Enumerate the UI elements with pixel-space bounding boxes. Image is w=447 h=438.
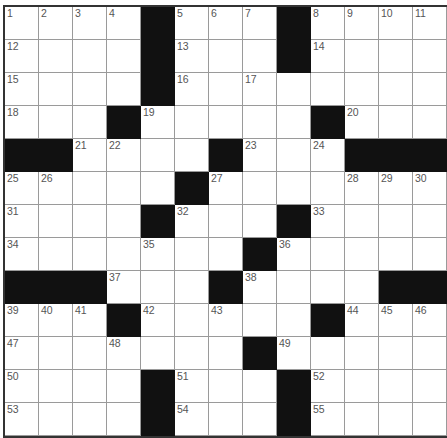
grid-cell[interactable] bbox=[209, 205, 243, 238]
grid-cell[interactable] bbox=[107, 370, 141, 403]
grid-cell[interactable]: 18 bbox=[5, 106, 39, 139]
grid-cell[interactable] bbox=[73, 403, 107, 436]
grid-cell[interactable] bbox=[243, 106, 277, 139]
grid-cell[interactable] bbox=[107, 40, 141, 73]
grid-cell[interactable] bbox=[107, 172, 141, 205]
grid-cell[interactable] bbox=[345, 403, 379, 436]
grid-cell[interactable]: 35 bbox=[141, 238, 175, 271]
grid-cell[interactable] bbox=[73, 238, 107, 271]
grid-cell[interactable]: 4 bbox=[107, 7, 141, 40]
grid-cell[interactable] bbox=[413, 40, 447, 73]
grid-cell[interactable] bbox=[277, 172, 311, 205]
grid-cell[interactable] bbox=[277, 271, 311, 304]
grid-cell[interactable]: 19 bbox=[141, 106, 175, 139]
grid-cell[interactable]: 9 bbox=[345, 7, 379, 40]
grid-cell[interactable]: 12 bbox=[5, 40, 39, 73]
grid-cell[interactable] bbox=[379, 205, 413, 238]
grid-cell[interactable]: 53 bbox=[5, 403, 39, 436]
grid-cell[interactable] bbox=[243, 172, 277, 205]
grid-cell[interactable] bbox=[209, 106, 243, 139]
grid-cell[interactable] bbox=[39, 238, 73, 271]
grid-cell[interactable] bbox=[243, 403, 277, 436]
grid-cell[interactable] bbox=[277, 106, 311, 139]
grid-cell[interactable] bbox=[107, 73, 141, 106]
grid-cell[interactable]: 40 bbox=[39, 304, 73, 337]
grid-cell[interactable]: 29 bbox=[379, 172, 413, 205]
grid-cell[interactable] bbox=[311, 238, 345, 271]
grid-cell[interactable]: 13 bbox=[175, 40, 209, 73]
grid-cell[interactable]: 7 bbox=[243, 7, 277, 40]
grid-cell[interactable] bbox=[73, 73, 107, 106]
grid-cell[interactable] bbox=[243, 205, 277, 238]
grid-cell[interactable]: 14 bbox=[311, 40, 345, 73]
grid-cell[interactable]: 15 bbox=[5, 73, 39, 106]
grid-cell[interactable] bbox=[413, 73, 447, 106]
grid-cell[interactable] bbox=[175, 139, 209, 172]
grid-cell[interactable] bbox=[39, 73, 73, 106]
grid-cell[interactable] bbox=[311, 271, 345, 304]
grid-cell[interactable]: 55 bbox=[311, 403, 345, 436]
grid-cell[interactable] bbox=[379, 403, 413, 436]
grid-cell[interactable] bbox=[175, 238, 209, 271]
grid-cell[interactable] bbox=[345, 370, 379, 403]
grid-cell[interactable] bbox=[413, 238, 447, 271]
grid-cell[interactable]: 8 bbox=[311, 7, 345, 40]
grid-cell[interactable]: 24 bbox=[311, 139, 345, 172]
grid-cell[interactable] bbox=[379, 337, 413, 370]
grid-cell[interactable] bbox=[39, 205, 73, 238]
grid-cell[interactable]: 38 bbox=[243, 271, 277, 304]
grid-cell[interactable]: 31 bbox=[5, 205, 39, 238]
grid-cell[interactable] bbox=[277, 304, 311, 337]
grid-cell[interactable]: 54 bbox=[175, 403, 209, 436]
grid-cell[interactable] bbox=[345, 205, 379, 238]
grid-cell[interactable]: 32 bbox=[175, 205, 209, 238]
grid-cell[interactable]: 11 bbox=[413, 7, 447, 40]
grid-cell[interactable] bbox=[209, 40, 243, 73]
grid-cell[interactable] bbox=[39, 403, 73, 436]
grid-cell[interactable] bbox=[311, 337, 345, 370]
grid-cell[interactable] bbox=[73, 40, 107, 73]
grid-cell[interactable] bbox=[345, 40, 379, 73]
grid-cell[interactable]: 16 bbox=[175, 73, 209, 106]
grid-cell[interactable] bbox=[379, 370, 413, 403]
grid-cell[interactable] bbox=[345, 271, 379, 304]
grid-cell[interactable] bbox=[107, 238, 141, 271]
grid-cell[interactable]: 41 bbox=[73, 304, 107, 337]
grid-cell[interactable] bbox=[209, 403, 243, 436]
grid-cell[interactable] bbox=[175, 304, 209, 337]
grid-cell[interactable]: 26 bbox=[39, 172, 73, 205]
grid-cell[interactable]: 17 bbox=[243, 73, 277, 106]
grid-cell[interactable]: 52 bbox=[311, 370, 345, 403]
grid-cell[interactable]: 5 bbox=[175, 7, 209, 40]
grid-cell[interactable] bbox=[73, 205, 107, 238]
grid-cell[interactable] bbox=[175, 271, 209, 304]
grid-cell[interactable] bbox=[413, 106, 447, 139]
grid-cell[interactable]: 36 bbox=[277, 238, 311, 271]
grid-cell[interactable]: 33 bbox=[311, 205, 345, 238]
grid-cell[interactable]: 10 bbox=[379, 7, 413, 40]
grid-cell[interactable] bbox=[345, 238, 379, 271]
grid-cell[interactable] bbox=[209, 73, 243, 106]
grid-cell[interactable] bbox=[413, 337, 447, 370]
grid-cell[interactable] bbox=[141, 337, 175, 370]
grid-cell[interactable] bbox=[73, 370, 107, 403]
grid-cell[interactable]: 49 bbox=[277, 337, 311, 370]
grid-cell[interactable] bbox=[379, 238, 413, 271]
grid-cell[interactable]: 27 bbox=[209, 172, 243, 205]
grid-cell[interactable] bbox=[73, 106, 107, 139]
grid-cell[interactable]: 25 bbox=[5, 172, 39, 205]
grid-cell[interactable]: 48 bbox=[107, 337, 141, 370]
grid-cell[interactable]: 1 bbox=[5, 7, 39, 40]
grid-cell[interactable]: 50 bbox=[5, 370, 39, 403]
grid-cell[interactable] bbox=[243, 370, 277, 403]
grid-cell[interactable]: 2 bbox=[39, 7, 73, 40]
grid-cell[interactable]: 43 bbox=[209, 304, 243, 337]
grid-cell[interactable]: 37 bbox=[107, 271, 141, 304]
grid-cell[interactable] bbox=[413, 403, 447, 436]
grid-cell[interactable]: 28 bbox=[345, 172, 379, 205]
grid-cell[interactable] bbox=[379, 40, 413, 73]
grid-cell[interactable]: 23 bbox=[243, 139, 277, 172]
grid-cell[interactable] bbox=[209, 238, 243, 271]
grid-cell[interactable] bbox=[39, 40, 73, 73]
grid-cell[interactable] bbox=[141, 172, 175, 205]
